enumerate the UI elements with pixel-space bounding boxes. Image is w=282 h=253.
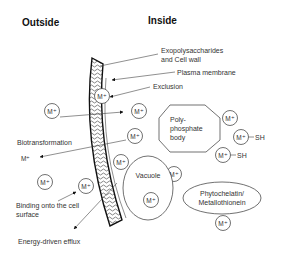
metal-ion: M⁺ [132, 104, 147, 119]
metal-ion: M⁺ [45, 104, 60, 119]
svg-text:M⁺: M⁺ [47, 108, 56, 115]
polyphosphate-label: Poly- [170, 116, 187, 124]
polyphosphate-label-line3: body [170, 134, 186, 142]
plasma-membrane-leader [112, 72, 175, 80]
svg-text:M⁺: M⁺ [218, 152, 227, 159]
metal-ion: M⁺ [79, 179, 94, 194]
svg-text:M⁺: M⁺ [225, 115, 234, 122]
transformed-metal-ion: M⁺ [21, 155, 30, 162]
exclusion-leader [110, 87, 150, 97]
svg-text:M⁺: M⁺ [97, 93, 106, 100]
phytochelatin-metallothionein [183, 182, 261, 214]
metallothionein-label: Metallothionein [198, 199, 245, 206]
binding-label-line2: surface [16, 211, 39, 218]
svg-text:M⁺: M⁺ [146, 197, 155, 204]
metal-ion: M⁺ [128, 129, 143, 144]
svg-text:M⁺: M⁺ [81, 183, 90, 190]
exopolysaccharides-leader [100, 54, 158, 66]
vacuole [123, 156, 173, 220]
plasma-membrane-label: Plasma membrane [177, 69, 236, 76]
metal-ion: M⁺ [38, 175, 53, 190]
metal-ion: M⁺ [95, 89, 110, 104]
biotransformation-label: Biotransformation [17, 139, 72, 146]
metal-resistance-diagram: Outside Inside Exopolysaccharides and Ce… [0, 0, 282, 253]
svg-text:M⁺: M⁺ [40, 179, 49, 186]
svg-text:M⁺: M⁺ [134, 108, 143, 115]
metal-ion: M⁺ [223, 111, 238, 126]
metal-ion: M⁺ [114, 155, 129, 170]
svg-text:M⁺: M⁺ [116, 159, 125, 166]
inside-header: Inside [148, 15, 177, 26]
polyphosphate-label-line2: phosphate [170, 125, 203, 133]
svg-text:SH: SH [255, 134, 265, 141]
binding-label: Binding onto the cell [16, 202, 79, 210]
binding-arrow [58, 192, 76, 201]
phytochelatin-label: Phytochelatin/ [200, 190, 244, 198]
exopolysaccharides-label: Exopolysaccharides [161, 47, 224, 55]
metal-ion: M⁺ [144, 193, 159, 208]
svg-text:SH: SH [237, 152, 247, 159]
efflux-label: Energy-driven efflux [18, 238, 81, 246]
vacuole-label: Vacuole [136, 172, 161, 179]
metal-thiol-complex: M⁺ SH [234, 130, 265, 145]
outside-header: Outside [22, 17, 60, 28]
cell-wall-label: and Cell wall [161, 56, 201, 63]
svg-text:M⁺: M⁺ [218, 220, 227, 227]
metal-ion: M⁺ [216, 216, 231, 231]
metal-thiol-complex: M⁺ SH [216, 148, 247, 163]
svg-text:M⁺: M⁺ [236, 134, 245, 141]
svg-text:M⁺: M⁺ [130, 133, 139, 140]
exclusion-label: Exclusion [153, 83, 183, 90]
